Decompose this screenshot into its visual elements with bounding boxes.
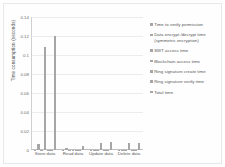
x-axis-ticks: Store dataRead dataUpdate dataDelete dat… [31,151,143,156]
bar [128,143,131,150]
bar [82,146,85,150]
legend-item[interactable]: Data encrypt /decrypt time (symmetric en… [150,32,223,42]
legend-item[interactable]: Time to verify permission [150,22,223,27]
legend-swatch-icon [150,23,153,26]
legend-label: Total time [154,90,173,95]
y-tick-label: 0.04 [3,110,29,115]
bar [100,143,103,150]
legend-swatch-icon [150,70,153,73]
legend-label: Data encrypt /decrypt time (symmetric en… [154,32,223,42]
y-tick-label: 0.12 [3,34,29,39]
y-axis-ticks: 0.140.120.10.080.060.040.020 [0,17,29,150]
y-tick-label: 0.14 [3,15,29,20]
legend-item[interactable]: Ring signature create time [150,69,223,74]
bar [44,47,47,150]
legend-label: Ring signature verify time [154,79,204,84]
legend-label: SWT access time [154,48,188,53]
y-tick-label: 0.1 [3,53,29,58]
bar [37,144,40,150]
bar-group [34,17,57,150]
legend-label: Time to verify permission [154,22,203,27]
legend-swatch-icon [150,60,153,63]
plot-area [31,17,143,150]
bar-group [118,17,141,150]
y-tick-label: 0.08 [3,72,29,77]
bar-group [62,17,85,150]
bar [110,142,113,150]
legend-swatch-icon [150,49,153,52]
legend-swatch-icon [150,80,153,83]
x-tick-label: Update data [87,151,115,156]
bar [54,36,57,150]
chart-container: Time consumption (seconds) 0.140.120.10.… [0,0,225,167]
legend-item[interactable]: Total time [150,90,223,95]
bar-groups [31,17,143,150]
legend-item[interactable]: SWT access time [150,48,223,53]
bar [65,148,68,150]
legend-item[interactable]: Ring signature verify time [150,79,223,84]
legend-swatch-icon [150,91,153,94]
y-tick-label: 0.06 [3,91,29,96]
legend-label: Blockchain access time [154,59,200,64]
x-tick-label: Read data [59,151,87,156]
x-tick-label: Store data [31,151,59,156]
legend-label: Ring signature create time [154,69,205,74]
chart-legend: Time to verify permissionData encrypt /d… [150,22,223,100]
y-tick-label: 0.02 [3,129,29,134]
x-tick-label: Delete data [115,151,143,156]
y-tick-label: 0 [3,148,29,153]
bar-group [90,17,113,150]
legend-swatch-icon [150,34,153,37]
bar [138,143,141,150]
legend-item[interactable]: Blockchain access time [150,59,223,64]
